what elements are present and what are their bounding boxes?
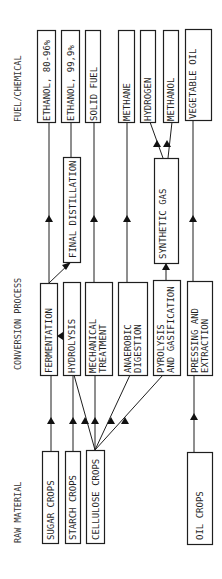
svg-text:METHANE: METHANE: [122, 83, 132, 121]
process-box-anaerobic-digestion: ANAEROBIC DIGESTION: [119, 283, 148, 376]
intermediate-box-synthetic-gas: SYNTHETIC GAS: [155, 159, 179, 264]
arrow-up-icon: [189, 215, 197, 222]
arrow-up-icon: [107, 417, 115, 424]
fuel-box-ethanol-99: ETHANOL, 99,9%: [62, 31, 80, 123]
fuel-box-ethanol-80: ETHANOL, 80-96%: [38, 31, 56, 123]
svg-text:MECHANICAL: MECHANICAL: [88, 319, 98, 373]
svg-text:SUGAR CROPS: SUGAR CROPS: [46, 480, 56, 540]
arrow-up-icon: [45, 215, 53, 222]
svg-text:PRESSING AND: PRESSING AND: [190, 308, 200, 373]
fuel-box-solid-fuel: SOLID FUEL: [86, 31, 101, 123]
svg-text:SYNTHETIC GAS: SYNTHETIC GAS: [158, 189, 168, 259]
svg-text:VEGETABLE OIL: VEGETABLE OIL: [188, 49, 198, 119]
arrow-up-icon: [123, 215, 131, 222]
process-box-fermentation: FERMENTATION: [41, 284, 58, 376]
svg-text:TREATMENT: TREATMENT: [98, 324, 108, 373]
process-box-pressing-extraction: PRESSING AND EXTRACTION: [188, 282, 213, 376]
arrow-up-icon: [190, 413, 198, 420]
process-box-pyrolysis-gasification: PYROLYSIS AND GASIFICATION: [154, 281, 181, 376]
raw-box-starch-crops: STARCH CROPS: [66, 452, 81, 544]
arrow-up-icon: [69, 417, 77, 424]
fuel-box-methanol: METHANOL: [164, 31, 179, 123]
fuel-box-methane: METHANE: [119, 31, 135, 123]
raw-box-oil-crops: OIL CROPS: [188, 453, 213, 545]
svg-text:STARCH CROPS: STARCH CROPS: [68, 475, 78, 540]
process-box-hydrolysis: HYDROLYSIS: [64, 283, 81, 376]
section-label-conversion: CONVERSION PROCESS: [13, 278, 23, 370]
svg-text:METHANOL: METHANOL: [166, 78, 176, 121]
svg-text:OIL CROPS: OIL CROPS: [195, 491, 205, 540]
svg-text:ETHANOL, 99,9%: ETHANOL, 99,9%: [66, 45, 76, 121]
arrow-up-icon: [153, 140, 161, 147]
svg-text:CELLULOSE CROPS: CELLULOSE CROPS: [91, 459, 101, 540]
bioenergy-flow-diagram: FUEL/CHEMICAL CONVERSION PROCESS RAW MAT…: [0, 0, 222, 579]
svg-text:AND GASIFICATION: AND GASIFICATION: [166, 286, 176, 373]
svg-text:PYROLYSIS: PYROLYSIS: [156, 324, 166, 373]
svg-text:FINAL DISTILLATION: FINAL DISTILLATION: [68, 160, 78, 258]
intermediate-box-final-distillation: FINAL DISTILLATION: [64, 158, 81, 263]
svg-text:FERMENTATION: FERMENTATION: [44, 308, 54, 373]
svg-text:DIGESTION: DIGESTION: [133, 324, 143, 373]
process-box-mechanical-treatment: MECHANICAL TREATMENT: [86, 283, 113, 376]
fuel-box-hydrogen: HYDROGEN: [141, 31, 156, 123]
arrow-up-icon: [90, 215, 98, 222]
svg-text:HYDROLYSIS: HYDROLYSIS: [67, 319, 77, 373]
fuel-box-vegetable-oil: VEGETABLE OIL: [186, 30, 212, 121]
svg-text:ETHANOL, 80-96%: ETHANOL, 80-96%: [42, 39, 52, 121]
section-label-raw: RAW MATERIAL: [13, 482, 23, 543]
arrow-up-icon: [91, 417, 99, 424]
arrow-up-icon: [47, 417, 55, 424]
raw-box-sugar-crops: SUGAR CROPS: [43, 452, 59, 544]
section-label-fuel: FUEL/CHEMICAL: [13, 55, 23, 122]
arrow-up-icon: [81, 417, 89, 424]
raw-box-cellulose-crops: CELLULOSE CROPS: [87, 451, 105, 544]
svg-text:SOLID FUEL: SOLID FUEL: [89, 67, 99, 121]
svg-text:ANAEROBIC: ANAEROBIC: [123, 324, 133, 373]
svg-text:HYDROGEN: HYDROGEN: [143, 78, 153, 121]
svg-text:EXTRACTION: EXTRACTION: [200, 319, 210, 373]
